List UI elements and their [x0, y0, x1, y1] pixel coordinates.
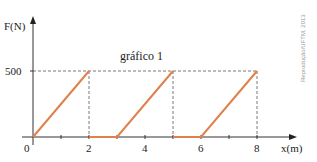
y-axis-arrow-icon: [30, 16, 36, 24]
x-axis-arrow-icon: [289, 134, 297, 140]
force-position-chart: F(N) 500 gráfico 1 0 2 4 6 8 x(m) Reprod…: [0, 0, 317, 162]
credit-text: Reprodução/UFTM, 2013: [300, 14, 306, 82]
chart-title: gráfico 1: [120, 49, 163, 63]
series-ramp-1: [33, 71, 89, 137]
y-axis-label: F(N): [4, 20, 26, 33]
axes: [22, 22, 290, 145]
series-ramp-3: [173, 71, 257, 137]
series-ramp-2: [89, 71, 173, 137]
x-tick-6: 6: [198, 142, 204, 154]
y-tick-500: 500: [5, 65, 22, 77]
x-tick-8: 8: [254, 142, 260, 154]
x-axis-label: x(m): [281, 142, 303, 155]
x-tick-0: 0: [24, 142, 30, 154]
x-tick-2: 2: [86, 142, 92, 154]
x-tick-4: 4: [142, 142, 148, 154]
